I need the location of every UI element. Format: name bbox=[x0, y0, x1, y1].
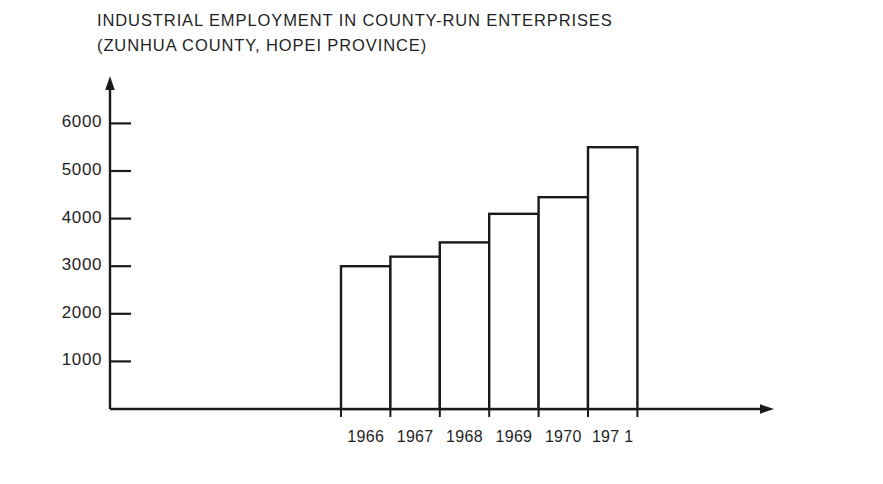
plot-area bbox=[0, 0, 883, 484]
bar bbox=[539, 197, 588, 409]
y-tick-label: 1000 bbox=[32, 350, 102, 370]
bar bbox=[588, 147, 637, 409]
y-axis-arrow-icon bbox=[105, 76, 115, 90]
y-tick-label: 6000 bbox=[32, 112, 102, 132]
y-tick-label: 3000 bbox=[32, 255, 102, 275]
bar bbox=[390, 257, 439, 409]
bar bbox=[341, 266, 390, 409]
bar bbox=[489, 214, 538, 409]
chart-figure: INDUSTRIAL EMPLOYMENT IN COUNTY-RUN ENTE… bbox=[0, 0, 883, 484]
bars-group bbox=[341, 147, 637, 409]
y-tick-label: 4000 bbox=[32, 208, 102, 228]
y-tick-label: 2000 bbox=[32, 303, 102, 323]
bar bbox=[440, 242, 489, 409]
y-tick-label: 5000 bbox=[32, 160, 102, 180]
y-tick-marks bbox=[110, 123, 131, 361]
x-tick-label: 197 1 bbox=[584, 428, 641, 446]
x-axis-arrow-icon bbox=[760, 404, 774, 414]
